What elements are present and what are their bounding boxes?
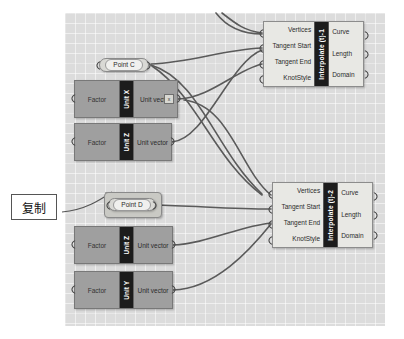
port-grip-tangentstart-1[interactable] (258, 44, 264, 53)
interpolate-2-outputs: Curve Length Domain (338, 183, 372, 247)
port-grip-point-d-in[interactable] (105, 201, 111, 210)
param-point-c-label: Point C (105, 59, 142, 71)
unit-z-upper-output[interactable]: Unit vector (134, 124, 171, 160)
param-point-c[interactable]: Point C (99, 58, 149, 72)
port-grip-length-1[interactable] (364, 50, 370, 59)
component-title: Interpolate (t)-2 (327, 190, 334, 241)
unit-y-title: Unit Y (123, 281, 130, 300)
unit-x-input-factor[interactable]: Factor (75, 81, 119, 117)
port-grip-unit-z-lower-in[interactable] (70, 240, 76, 249)
port-grip-tangentend-1[interactable] (258, 60, 264, 69)
output-curve[interactable]: Curve (329, 29, 363, 36)
screenshot-stage: Vertices Tangent Start Tangent End KnotS… (0, 0, 404, 339)
port-grip-length-2[interactable] (373, 211, 379, 220)
unit-z-upper-title: Unit Z (123, 133, 130, 151)
component-title: Interpolate (t)-1 (318, 29, 325, 80)
unit-z-upper-input-factor[interactable]: Factor (75, 124, 119, 160)
unit-z-lower-title-capsule[interactable]: Unit Z (119, 227, 134, 263)
unit-z-lower-title: Unit Z (123, 236, 130, 254)
unit-y-input-factor[interactable]: Factor (75, 272, 119, 308)
unit-y-output-label: Unit vector (137, 287, 168, 294)
port-grip-point-c-out[interactable] (146, 61, 152, 70)
unit-z-upper-title-capsule[interactable]: Unit Z (119, 124, 134, 160)
port-grip-vertices-1[interactable] (258, 29, 264, 38)
component-unit-z-lower[interactable]: Factor Unit Z Unit vector (74, 226, 173, 264)
unit-x-value-badge[interactable]: x (164, 94, 174, 104)
port-grip-knotstyle-2[interactable] (267, 236, 273, 245)
port-grip-point-d-out[interactable] (152, 201, 158, 210)
input-knotstyle[interactable]: KnotStyle (264, 75, 314, 82)
port-grip-curve-1[interactable] (364, 31, 370, 40)
unit-z-lower-output-label: Unit vector (137, 242, 168, 249)
unit-x-title-capsule[interactable]: Unit X (119, 81, 134, 117)
unit-z-lower-output[interactable]: Unit vector (134, 227, 172, 263)
port-grip-tangentend-2[interactable] (267, 220, 273, 229)
port-grip-vertices-2[interactable] (267, 190, 273, 199)
port-grip-unit-z-lower-out[interactable] (171, 240, 177, 249)
component-unit-z-upper[interactable]: Factor Unit Z Unit vector (74, 123, 172, 161)
unit-z-lower-input-factor[interactable]: Factor (75, 227, 119, 263)
interpolate-1-outputs: Curve Length Domain (329, 22, 363, 86)
port-grip-domain-1[interactable] (364, 70, 370, 79)
input-tangent-start[interactable]: Tangent Start (264, 43, 314, 50)
param-point-d-label: Point D (113, 199, 150, 211)
input-vertices[interactable]: Vertices (273, 188, 323, 195)
output-domain[interactable]: Domain (329, 72, 363, 79)
unit-z-upper-output-label: Unit vector (137, 139, 168, 146)
unit-x-title: Unit X (123, 90, 130, 109)
input-vertices[interactable]: Vertices (264, 27, 314, 34)
annotation-text: 复制 (22, 199, 46, 216)
unit-x-output[interactable]: Unit vector x (134, 81, 177, 117)
port-grip-knotstyle-1[interactable] (258, 75, 264, 84)
output-curve[interactable]: Curve (338, 190, 372, 197)
output-length[interactable]: Length (329, 51, 363, 58)
component-title-capsule[interactable]: Interpolate (t)-1 (314, 22, 329, 86)
input-tangent-start[interactable]: Tangent Start (273, 204, 323, 211)
component-title-capsule[interactable]: Interpolate (t)-2 (323, 183, 338, 247)
port-grip-curve-2[interactable] (373, 192, 379, 201)
port-grip-unit-z-upper-in[interactable] (70, 137, 76, 146)
port-grip-unit-x-in[interactable] (70, 94, 76, 103)
port-grip-domain-2[interactable] (373, 231, 379, 240)
input-tangent-end[interactable]: Tangent End (264, 59, 314, 66)
component-interpolate-1[interactable]: Vertices Tangent Start Tangent End KnotS… (263, 21, 364, 87)
interpolate-1-inputs: Vertices Tangent Start Tangent End KnotS… (264, 22, 314, 86)
output-domain[interactable]: Domain (338, 233, 372, 240)
port-grip-unit-y-in[interactable] (70, 285, 76, 294)
component-unit-x[interactable]: Factor Unit X Unit vector x (74, 80, 178, 118)
port-grip-unit-x-out[interactable] (176, 94, 182, 103)
input-knotstyle[interactable]: KnotStyle (273, 236, 323, 243)
component-interpolate-2[interactable]: Vertices Tangent Start Tangent End KnotS… (272, 182, 373, 248)
component-unit-y[interactable]: Factor Unit Y Unit vector (74, 271, 173, 309)
unit-y-title-capsule[interactable]: Unit Y (119, 272, 134, 308)
unit-y-output[interactable]: Unit vector (134, 272, 172, 308)
port-grip-unit-z-upper-out[interactable] (170, 137, 176, 146)
interpolate-2-inputs: Vertices Tangent Start Tangent End KnotS… (273, 183, 323, 247)
annotation-label-box: 复制 (11, 194, 57, 220)
port-grip-point-c-in[interactable] (95, 61, 101, 70)
port-grip-tangentstart-2[interactable] (267, 205, 273, 214)
output-length[interactable]: Length (338, 212, 372, 219)
port-grip-unit-y-out[interactable] (171, 285, 177, 294)
param-point-d[interactable]: Point D (108, 198, 156, 211)
input-tangent-end[interactable]: Tangent End (273, 220, 323, 227)
